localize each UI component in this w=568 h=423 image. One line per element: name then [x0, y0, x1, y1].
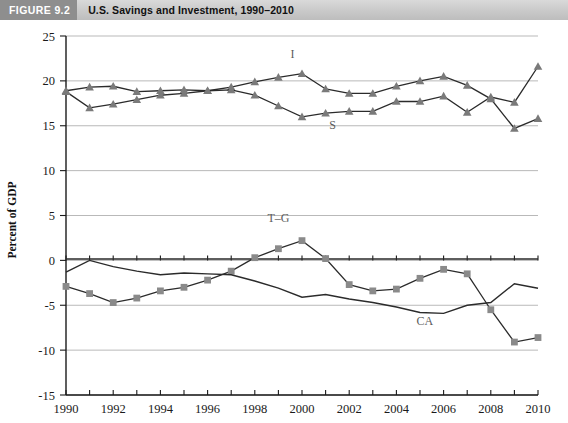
x-tick-label-2008: 2008	[478, 402, 503, 416]
marker-TG-2001	[322, 255, 329, 262]
x-axis-tick-labels: 1990199219941996199820002002200420062008…	[54, 402, 551, 416]
y-tick-label-0: 0	[49, 254, 55, 268]
x-tick-label-1994: 1994	[148, 402, 174, 416]
marker-TG-1992	[110, 299, 117, 306]
figure-container: FIGURE 9.2 U.S. Savings and Investment, …	[0, 0, 568, 423]
marker-TG-2007	[464, 270, 471, 277]
x-tick-label-1996: 1996	[195, 402, 220, 416]
marker-TG-2002	[346, 281, 353, 288]
y-tick-label--10: -10	[38, 344, 55, 358]
marker-TG-1990	[63, 283, 70, 290]
marker-TG-2004	[393, 286, 400, 293]
x-tick-label-2004: 2004	[384, 402, 410, 416]
y-tick-label-10: 10	[43, 164, 56, 178]
y-tick-label--15: -15	[38, 389, 55, 403]
y-tick-label--5: -5	[45, 299, 55, 313]
marker-S-1999	[274, 102, 283, 110]
y-axis-tick-labels: -15-10-50510152025	[38, 30, 55, 403]
figure-title: U.S. Savings and Investment, 1990–2010	[88, 4, 294, 16]
x-tick-label-2010: 2010	[526, 402, 551, 416]
annotation-CA: CA	[416, 314, 433, 328]
chart-plot-area: -15-10-50510152025 199019921994199619982…	[0, 20, 568, 423]
annotation-I: I	[291, 47, 295, 61]
x-tick-label-1992: 1992	[101, 402, 126, 416]
marker-S-2007	[463, 108, 472, 116]
marker-S-2006	[439, 92, 448, 100]
marker-TG-2003	[369, 287, 376, 294]
marker-TG-1999	[275, 245, 282, 252]
x-tick-label-2002: 2002	[337, 402, 362, 416]
marker-TG-1993	[133, 295, 140, 302]
marker-TG-2010	[535, 334, 542, 341]
marker-TG-2005	[417, 275, 424, 282]
data-series	[62, 62, 543, 345]
marker-TG-2008	[487, 306, 494, 313]
marker-I-2010	[534, 114, 543, 122]
marker-TG-2009	[511, 339, 518, 346]
annotation-S: S	[329, 118, 336, 132]
x-tick-label-2006: 2006	[431, 402, 456, 416]
series-TG	[63, 237, 542, 345]
x-tick-label-1990: 1990	[54, 402, 79, 416]
marker-TG-2000	[299, 237, 306, 244]
series-I	[62, 69, 543, 131]
y-tick-label-15: 15	[43, 119, 56, 133]
y-tick-label-25: 25	[43, 30, 56, 44]
y-axis-title: Percent of GDP	[6, 181, 18, 258]
marker-TG-1995	[181, 284, 188, 291]
marker-TG-1994	[157, 287, 164, 294]
marker-S-2010	[534, 62, 543, 70]
figure-number-badge: FIGURE 9.2	[0, 0, 77, 20]
marker-TG-1991	[86, 290, 93, 297]
marker-I-2006	[439, 72, 448, 80]
x-tick-label-2000: 2000	[290, 402, 315, 416]
marker-TG-1996	[204, 277, 211, 284]
marker-TG-1997	[228, 268, 235, 275]
marker-I-2001	[321, 85, 330, 93]
marker-TG-2006	[440, 266, 447, 273]
y-tick-label-5: 5	[49, 209, 55, 223]
savings-investment-line-chart: -15-10-50510152025 199019921994199619982…	[0, 20, 568, 423]
figure-header: FIGURE 9.2 U.S. Savings and Investment, …	[0, 0, 568, 20]
annotation-TG: T–G	[267, 211, 289, 225]
x-tick-label-1998: 1998	[242, 402, 267, 416]
marker-I-2000	[298, 69, 307, 77]
y-tick-label-20: 20	[43, 74, 56, 88]
marker-TG-1998	[251, 254, 258, 261]
